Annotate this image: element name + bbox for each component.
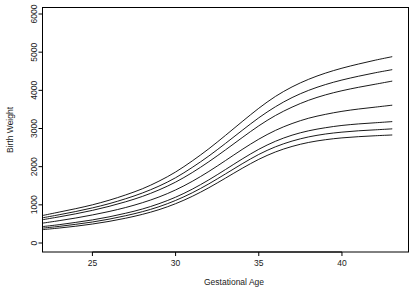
y-tick-label: 5000 [29,42,39,61]
x-tick-label: 35 [254,258,264,268]
chart-figure: 0100020003000400050006000 25303540 Gesta… [0,0,420,294]
birth-weight-vs-gestational-age-chart: 0100020003000400050006000 25303540 Gesta… [0,0,420,294]
figure-background [0,0,420,294]
x-tick-label: 30 [171,258,181,268]
x-tick-label: 40 [337,258,347,268]
y-tick-label: 4000 [29,81,39,100]
y-tick-label: 6000 [29,4,39,23]
x-axis-title: Gestational Age [204,277,264,287]
y-tick-label: 3000 [29,119,39,138]
y-tick-label: 0 [29,240,39,245]
y-axis-title: Birth Weight [5,106,15,153]
y-tick-label: 2000 [29,157,39,176]
x-tick-label: 25 [88,258,98,268]
y-tick-label: 1000 [29,195,39,214]
